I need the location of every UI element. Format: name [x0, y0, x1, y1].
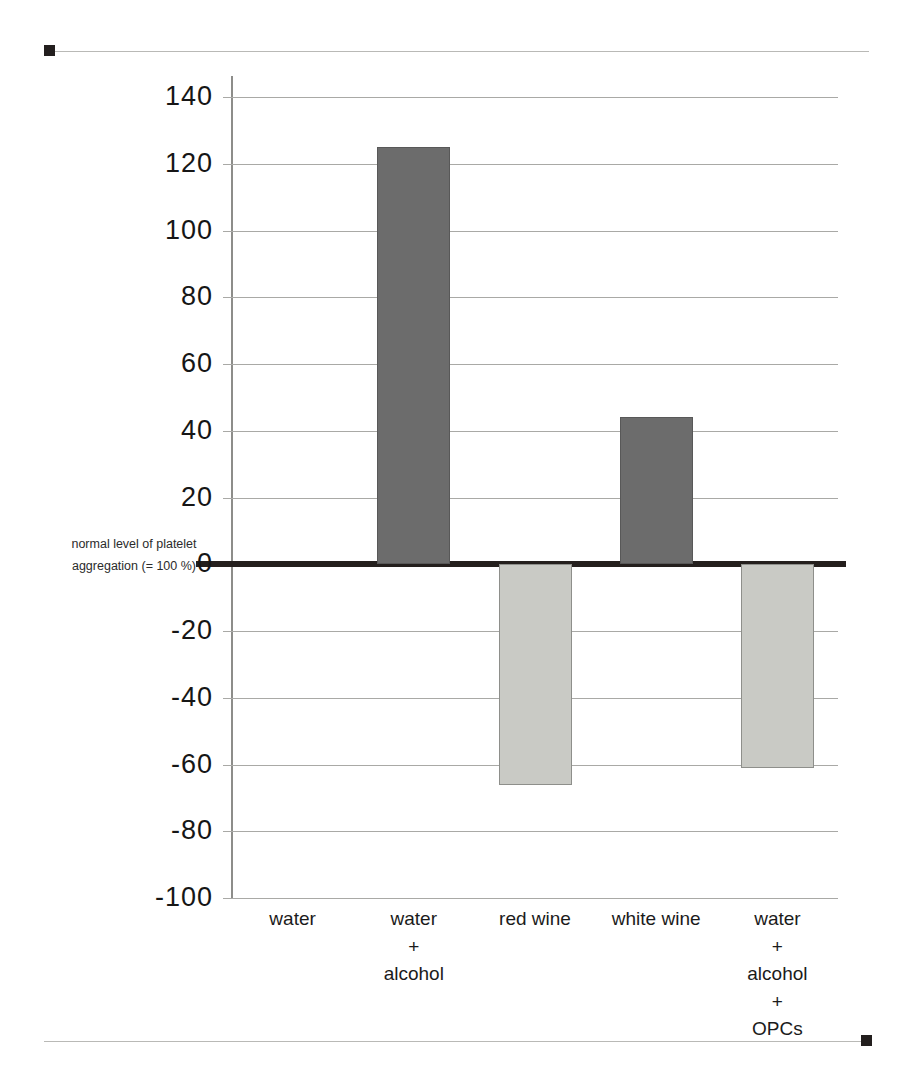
y-axis-tick — [223, 297, 232, 298]
bar — [620, 417, 693, 564]
zero-annotation-line-1: normal level of platelet — [71, 537, 196, 551]
y-axis-tick-label: 140 — [165, 83, 213, 110]
y-axis-tick-label: 20 — [181, 484, 213, 511]
x-axis-category-label-line: water — [717, 905, 838, 933]
gridline — [232, 297, 838, 298]
bar — [377, 147, 450, 564]
gridline — [232, 231, 838, 232]
x-axis-category-label-line: OPCs — [717, 1015, 838, 1043]
y-axis-tick — [223, 765, 232, 766]
gridline — [232, 498, 838, 499]
platelet-aggregation-bar-chart: 140120100806040200-20-40-60-80-100 norma… — [0, 0, 911, 1088]
x-axis-category-labels: waterwater+alcoholred winewhite winewate… — [232, 905, 838, 1075]
gridline — [232, 364, 838, 365]
y-axis-tick-label: -40 — [171, 684, 213, 711]
y-axis-tick — [223, 898, 232, 899]
x-axis-category-label-line: red wine — [474, 905, 595, 933]
y-axis-tick-label: 80 — [181, 283, 213, 310]
plot-area — [232, 97, 838, 898]
x-axis-category-label-line: + — [353, 933, 474, 961]
x-axis-category-label-line: alcohol — [353, 960, 474, 988]
gridline — [232, 898, 838, 899]
x-axis-category-label-line: + — [717, 988, 838, 1016]
zero-baseline-annotation: normal level of platelet aggregation (= … — [58, 534, 210, 578]
gridline — [232, 97, 838, 98]
gridline — [232, 831, 838, 832]
y-axis-tick — [223, 831, 232, 832]
y-axis-tick — [223, 364, 232, 365]
y-axis-tick-label: 60 — [181, 350, 213, 377]
y-axis-tick — [223, 631, 232, 632]
y-axis-tick — [223, 431, 232, 432]
gridline — [232, 164, 838, 165]
x-axis-category-label: water+alcohol — [353, 905, 474, 988]
y-axis-tick-label: -100 — [155, 884, 213, 911]
y-axis-tick — [223, 97, 232, 98]
x-axis-category-label: water+alcohol+OPCs — [717, 905, 838, 1043]
x-axis-category-label-line: water — [232, 905, 353, 933]
y-axis-tick-label: 120 — [165, 150, 213, 177]
y-axis-tick — [223, 231, 232, 232]
y-axis-tick — [223, 698, 232, 699]
bar — [741, 564, 814, 768]
y-axis-tick — [223, 164, 232, 165]
x-axis-category-label: water — [232, 905, 353, 933]
bar — [499, 564, 572, 784]
x-axis-category-label-line: water — [353, 905, 474, 933]
y-axis-tick-label: -20 — [171, 617, 213, 644]
x-axis-category-label: red wine — [474, 905, 595, 933]
y-axis-tick-label: -80 — [171, 817, 213, 844]
x-axis-category-label: white wine — [596, 905, 717, 933]
x-axis-category-label-line: + — [717, 933, 838, 961]
x-axis-category-label-line: alcohol — [717, 960, 838, 988]
y-axis-tick — [223, 498, 232, 499]
x-axis-category-label-line: white wine — [596, 905, 717, 933]
y-axis-tick-label: 40 — [181, 417, 213, 444]
gridline — [232, 431, 838, 432]
y-axis-tick-label: -60 — [171, 751, 213, 778]
y-axis-tick-label: 100 — [165, 217, 213, 244]
zero-annotation-line-2: aggregation (= 100 %) — [72, 559, 196, 573]
